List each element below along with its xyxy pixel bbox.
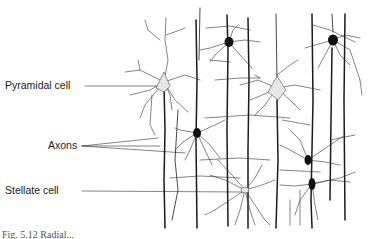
label-stellate-cell: Stellate cell (5, 185, 59, 196)
dark-cell-body (328, 35, 338, 46)
cell-bodies (156, 35, 338, 194)
dark-cell-body (309, 178, 316, 190)
neuron-diagram (0, 0, 374, 239)
pyramidal-cell-body (156, 72, 170, 92)
label-axons: Axons (48, 140, 77, 151)
figure-caption: Fig. 5.12 Radial... (2, 229, 74, 239)
vertical-axons (164, 14, 345, 228)
label-pyramidal-cell: Pyramidal cell (5, 80, 70, 91)
leader-lines (82, 86, 244, 192)
stellate-cell-body (241, 187, 249, 193)
dark-cell-body (305, 155, 312, 165)
pyramidal-cell-body-2 (268, 76, 286, 100)
dendrites (125, 18, 362, 225)
dark-cell-body (193, 128, 201, 138)
dark-cell-body (225, 37, 234, 47)
